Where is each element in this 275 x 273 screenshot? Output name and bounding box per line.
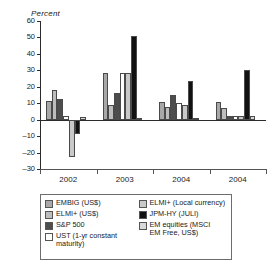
bar (193, 118, 199, 120)
chart-legend: EMBIG (US$)ELMI+ (US$)S&P 500UST (1-yr c… (40, 194, 232, 260)
bar-groups (40, 21, 266, 169)
bar-group (46, 21, 86, 169)
y-tick-label: –30 (13, 165, 35, 173)
x-axis-label: 2002 (48, 175, 88, 184)
legend-item[interactable]: EM equities (MSCI EM Free, US$) (139, 221, 229, 238)
plot-area: 6050403020100–10–20–30 (40, 21, 266, 169)
legend-item-label: UST (1-yr constant maturity) (56, 232, 117, 249)
y-tick-label: –10 (13, 132, 35, 140)
x-tick (153, 169, 154, 174)
legend-item[interactable]: UST (1-yr constant maturity) (45, 232, 135, 249)
legend-item[interactable]: S&P 500 (45, 221, 135, 230)
legend-item-label: ELMI+ (US$) (56, 210, 98, 218)
y-tick-label: 10 (13, 100, 35, 108)
legend-item[interactable]: ELMI+ (Local currency) (139, 199, 229, 208)
y-tick-label: 0 (13, 116, 35, 124)
x-tick (266, 169, 267, 174)
legend-swatch-icon (45, 222, 53, 230)
legend-item-label: ELMI+ (Local currency) (150, 199, 226, 207)
legend-column-left: EMBIG (US$)ELMI+ (US$)S&P 500UST (1-yr c… (45, 199, 135, 249)
y-tick-label: 40 (13, 50, 35, 58)
x-axis-label: 2004 (161, 175, 201, 184)
legend-item-label: EMBIG (US$) (56, 199, 101, 207)
bar (250, 116, 256, 120)
bar (188, 81, 194, 120)
y-tick-label: 50 (13, 34, 35, 42)
legend-item-label: JPM-HY (JULI) (150, 210, 199, 218)
legend-swatch-icon (45, 200, 53, 208)
y-tick-label: –20 (13, 149, 35, 157)
x-tick (40, 169, 41, 174)
bar (244, 70, 250, 119)
bar (137, 118, 143, 120)
legend-swatch-icon (45, 211, 53, 219)
bar (80, 117, 86, 119)
legend-swatch-icon (139, 222, 147, 230)
bar-group (159, 21, 199, 169)
y-tick-label: 20 (13, 83, 35, 91)
legend-item[interactable]: EMBIG (US$) (45, 199, 135, 208)
bar-group (216, 21, 256, 169)
y-tick-label: 30 (13, 67, 35, 75)
x-tick (210, 169, 211, 174)
bar (131, 36, 137, 120)
x-axis-label: 2003 (105, 175, 145, 184)
legend-column-right: ELMI+ (Local currency)JPM-HY (JULI)EM eq… (139, 199, 229, 249)
x-axis-label: 2004 (218, 175, 258, 184)
legend-swatch-icon (139, 200, 147, 208)
legend-item[interactable]: ELMI+ (US$) (45, 210, 135, 219)
x-tick (97, 169, 98, 174)
chart-container: Percent 6050403020100–10–20–30 200220032… (0, 0, 275, 273)
legend-item[interactable]: JPM-HY (JULI) (139, 210, 229, 219)
legend-swatch-icon (45, 233, 53, 241)
bar (75, 120, 81, 135)
legend-swatch-icon (139, 211, 147, 219)
legend-item-label: S&P 500 (56, 221, 85, 229)
bar-group (103, 21, 143, 169)
y-axis-title: Percent (31, 9, 60, 18)
legend-item-label: EM equities (MSCI EM Free, US$) (150, 221, 211, 238)
y-tick-label: 60 (13, 17, 35, 25)
